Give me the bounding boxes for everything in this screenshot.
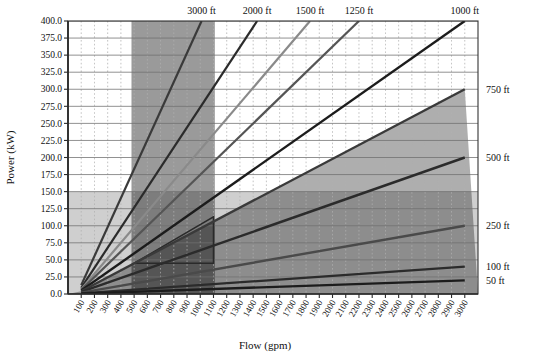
y-tick-label: 75.0 xyxy=(45,238,62,248)
x-tick-label: 600 xyxy=(137,298,153,315)
plot-area xyxy=(68,21,478,294)
chart-canvas: 0.025.050.075.0100.0125.0150.0175.0200.0… xyxy=(0,0,542,359)
y-tick-label: 150.0 xyxy=(41,187,63,197)
series-label-500-ft: 500 ft xyxy=(486,152,510,163)
series-label-3000-ft: 3000 ft xyxy=(187,5,216,16)
series-label-1250-ft: 1250 ft xyxy=(345,5,374,16)
y-tick-label: 225.0 xyxy=(41,136,63,146)
series-label-1000-ft: 1000 ft xyxy=(450,5,479,16)
x-tick-label: 100 xyxy=(71,298,87,315)
x-tick-label: 3000 xyxy=(452,298,470,319)
y-tick-label: 0.0 xyxy=(50,289,62,299)
x-axis-title: Flow (gpm) xyxy=(239,339,292,352)
y-tick-label: 275.0 xyxy=(41,102,63,112)
y-tick-label: 300.0 xyxy=(41,84,63,94)
y-axis-title: Power (kW) xyxy=(4,130,17,184)
series-label-100-ft: 100 ft xyxy=(486,261,510,272)
x-tick-label: 500 xyxy=(124,298,140,315)
y-tick-label: 25.0 xyxy=(45,272,62,282)
x-tick-label: 700 xyxy=(150,298,166,315)
series-label-1500-ft: 1500 ft xyxy=(296,5,325,16)
chart-root: 0.025.050.075.0100.0125.0150.0175.0200.0… xyxy=(0,0,542,359)
y-tick-label: 325.0 xyxy=(41,67,63,77)
y-tick-label: 175.0 xyxy=(41,170,63,180)
series-label-2000-ft: 2000 ft xyxy=(243,5,272,16)
x-tick-label: 800 xyxy=(164,298,180,315)
x-tick-label: 200 xyxy=(84,298,100,315)
y-tick-label: 250.0 xyxy=(41,119,63,129)
series-label-750-ft: 750 ft xyxy=(486,84,510,95)
y-tick-label: 200.0 xyxy=(41,153,63,163)
y-tick-label: 350.0 xyxy=(41,50,63,60)
y-tick-label: 50.0 xyxy=(45,255,62,265)
x-tick-label: 400 xyxy=(111,298,127,315)
y-tick-label: 125.0 xyxy=(41,204,63,214)
x-tick-label: 300 xyxy=(97,298,113,315)
series-label-50-ft: 50 ft xyxy=(486,275,505,286)
series-label-250-ft: 250 ft xyxy=(486,220,510,231)
y-tick-label: 375.0 xyxy=(41,33,63,43)
power-vs-flow-chart: 0.025.050.075.0100.0125.0150.0175.0200.0… xyxy=(0,0,542,359)
y-tick-label: 100.0 xyxy=(41,221,63,231)
y-tick-label: 400.0 xyxy=(41,16,63,26)
